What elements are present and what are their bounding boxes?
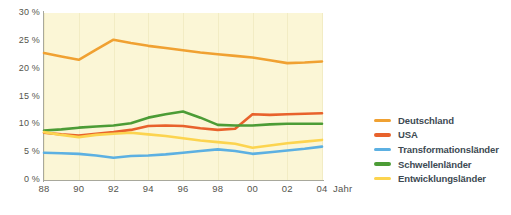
y-axis-tick-label: 25 % bbox=[2, 35, 40, 45]
legend-color-swatch-icon bbox=[374, 119, 391, 122]
x-axis-tick-label: 90 bbox=[64, 183, 94, 194]
y-axis-tick-label: 30 % bbox=[2, 7, 40, 17]
line-chart: 30 %25 %20 %15 %10 %5 %0 % 8890929496980… bbox=[0, 0, 511, 215]
y-axis-tick-label: 5 % bbox=[2, 146, 40, 156]
legend-item-label: Deutschland bbox=[398, 115, 454, 126]
x-axis-line bbox=[43, 180, 324, 181]
gridline bbox=[114, 13, 115, 180]
legend-item-deutschland[interactable]: Deutschland bbox=[374, 113, 511, 128]
legend-item-label: Entwicklungsländer bbox=[398, 173, 486, 184]
x-axis-tick-label: 00 bbox=[238, 183, 268, 194]
legend-item-usa[interactable]: USA bbox=[374, 128, 511, 143]
x-axis-tick-label: 96 bbox=[168, 183, 198, 194]
gridline bbox=[79, 13, 80, 180]
x-axis-tick-label: 92 bbox=[99, 183, 129, 194]
x-axis-tick-label: 88 bbox=[29, 183, 59, 194]
legend-item-label: Transformationsländer bbox=[398, 144, 499, 155]
legend-item-schwellenländer[interactable]: Schwellenländer bbox=[374, 157, 511, 172]
y-axis-tick-label: 20 % bbox=[2, 63, 40, 73]
gridline bbox=[218, 13, 219, 180]
y-axis-tick-label: 15 % bbox=[2, 91, 40, 101]
legend-color-swatch-icon bbox=[374, 162, 391, 165]
gridline bbox=[183, 13, 184, 180]
legend-item-transformationsländer[interactable]: Transformationsländer bbox=[374, 142, 511, 157]
legend-color-swatch-icon bbox=[374, 177, 391, 180]
gridline bbox=[253, 13, 254, 180]
legend-item-label: USA bbox=[398, 129, 418, 140]
x-axis-tick-label: 94 bbox=[133, 183, 163, 194]
legend-color-swatch-icon bbox=[374, 133, 391, 136]
cropped-title-remnant bbox=[0, 0, 511, 6]
gridline bbox=[44, 13, 45, 180]
gridline bbox=[148, 13, 149, 180]
y-axis-line bbox=[43, 11, 44, 182]
x-axis-tick-label: 98 bbox=[203, 183, 233, 194]
y-axis-tick-label: 10 % bbox=[2, 118, 40, 128]
legend-color-swatch-icon bbox=[374, 148, 391, 151]
gridline bbox=[322, 13, 323, 180]
x-axis-title: Jahr bbox=[333, 183, 352, 194]
x-axis-tick-label: 02 bbox=[272, 183, 302, 194]
legend: DeutschlandUSATransformationsländerSchwe… bbox=[374, 113, 511, 186]
plot-area bbox=[44, 13, 322, 180]
legend-item-entwicklungsländer[interactable]: Entwicklungsländer bbox=[374, 171, 511, 186]
legend-item-label: Schwellenländer bbox=[398, 159, 471, 170]
gridline bbox=[287, 13, 288, 180]
